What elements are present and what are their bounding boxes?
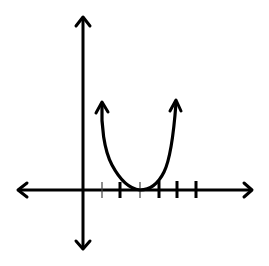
parabola-curve <box>102 103 176 190</box>
y-axis <box>76 17 90 249</box>
parabola <box>96 100 181 190</box>
coordinate-graph <box>0 0 269 266</box>
